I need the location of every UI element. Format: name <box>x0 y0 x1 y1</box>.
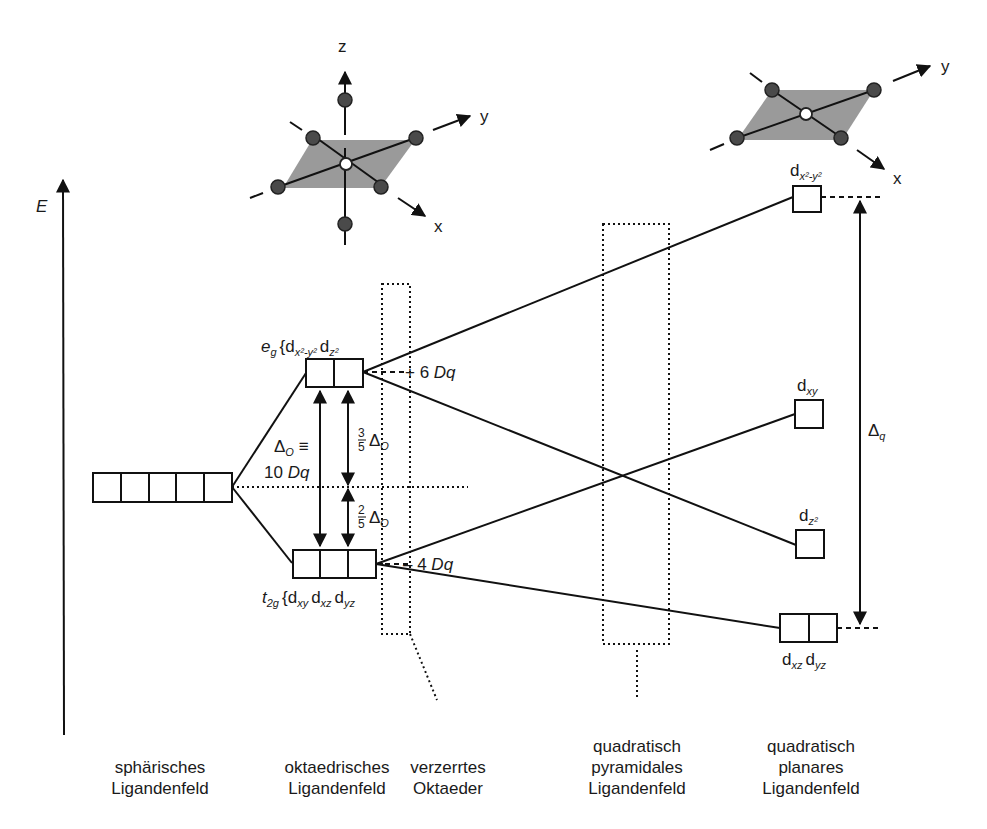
y-axis-arrow <box>433 116 470 130</box>
dxy-level: dxy <box>795 376 823 428</box>
dxz-dyz-level: dxzdyz <box>780 614 882 671</box>
column-label-square-pyramidal: quadratischpyramidalesLigandenfeld <box>588 737 685 798</box>
svg-text:t2g{dxydxzdyz: t2g{dxydxzdyz <box>262 588 356 609</box>
three-fifths-label: 3 5 ΔO <box>358 426 389 454</box>
column-labels: sphärischesLigandenfeld oktaedrischesLig… <box>111 737 859 798</box>
t2g-level: t2g{dxydxzdyz – 4 Dq <box>262 550 454 609</box>
ten-dq-label: 10 Dq <box>264 463 310 482</box>
svg-text:5: 5 <box>358 517 365 531</box>
svg-text:ΔO: ΔO <box>369 431 389 452</box>
column-label-square-planar: quadratischplanaresLigandenfeld <box>762 737 859 798</box>
y-axis-label: y <box>480 107 489 126</box>
svg-text:dxy: dxy <box>797 376 819 397</box>
distorted-octahedron-region <box>382 284 410 634</box>
svg-text:3: 3 <box>358 426 365 440</box>
x-axis-label: x <box>893 169 902 188</box>
energy-axis-label: E <box>36 197 48 216</box>
svg-text:dxzdyz: dxzdyz <box>782 650 826 671</box>
octahedral-molecule-icon: z y x <box>250 37 489 245</box>
crystal-field-diagram: E z y x y x <box>0 0 987 829</box>
z-axis-label: z <box>338 37 347 56</box>
eg-energy-label: + 6 Dq <box>405 363 456 382</box>
dz2-level: dz² <box>796 506 824 558</box>
square-pyramidal-region <box>603 224 669 644</box>
t2g-energy-label: – 4 Dq <box>403 555 454 574</box>
svg-text:2: 2 <box>358 503 365 517</box>
svg-text:eg{dx²-y²dz²: eg{dx²-y²dz² <box>261 337 339 358</box>
svg-text:dx²-y²: dx²-y² <box>790 161 822 182</box>
svg-text:dz²: dz² <box>799 506 818 527</box>
delta-q-label: Δq <box>868 421 886 442</box>
spherical-level <box>93 473 232 502</box>
column-label-spherical: sphärischesLigandenfeld <box>111 758 208 798</box>
two-fifths-label: 2 5 ΔO <box>358 503 389 531</box>
eg-level: eg{dx²-y²dz² + 6 Dq <box>261 337 456 387</box>
energy-axis: E <box>36 180 64 735</box>
dx2y2-level: dx²-y² <box>790 161 880 212</box>
x-axis-label: x <box>434 217 443 236</box>
column-label-octahedral: oktaedrischesLigandenfeld <box>285 758 390 798</box>
svg-text:5: 5 <box>358 440 365 454</box>
svg-text:ΔO: ΔO <box>369 508 389 529</box>
delta-o-label: ΔO ≡ <box>274 437 309 458</box>
x-axis-arrow <box>398 198 425 216</box>
y-axis-label: y <box>941 57 950 76</box>
column-label-distorted: verzerrtesOktaeder <box>410 758 486 798</box>
square-planar-molecule-icon: y x <box>710 57 950 188</box>
